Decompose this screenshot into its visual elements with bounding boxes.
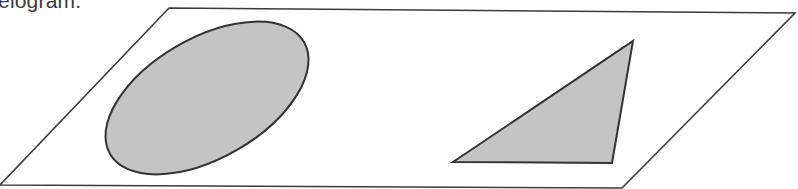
ellipse-shape	[80, 0, 334, 189]
triangle-shape	[453, 41, 633, 163]
geometry-figure	[0, 0, 798, 189]
